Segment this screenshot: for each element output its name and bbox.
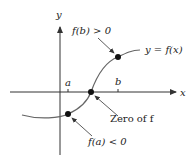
point-zero [88, 89, 94, 95]
point-f-b [115, 54, 121, 60]
annotation-fb: f(b) > 0 [72, 26, 111, 36]
annotation-zero: Zero of f [110, 114, 153, 124]
curve-label: y = f(x) [145, 45, 183, 55]
tick-label-b: b [115, 77, 121, 87]
y-axis-label: y [56, 10, 62, 20]
intermediate-value-diagram: y x a b y = f(x) f(b) > 0 Zero of f f(a)… [0, 0, 194, 161]
point-f-a [65, 111, 71, 117]
tick-label-a: a [65, 78, 71, 88]
x-axis-label: x [180, 88, 186, 98]
arrow-fa [72, 118, 92, 136]
annotation-fa: f(a) < 0 [88, 137, 127, 147]
arrow-fb [98, 38, 114, 53]
function-curve [22, 50, 140, 118]
